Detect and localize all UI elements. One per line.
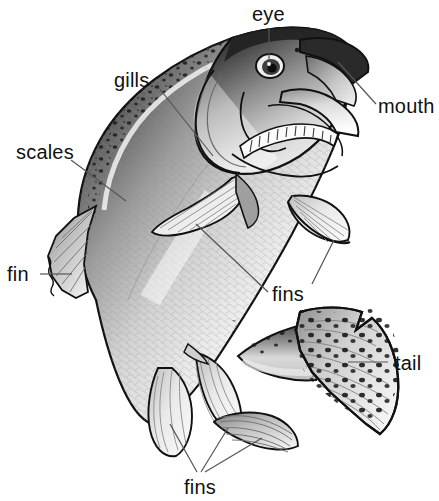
label-scales: scales — [16, 142, 74, 162]
label-fin: fin — [7, 264, 29, 284]
leader-fins-bottom-right — [205, 438, 262, 472]
fish-anatomy-diagram: eye mouth gills scales fin fins tail fin… — [0, 0, 439, 501]
pelvic-fin-right — [288, 196, 350, 244]
tail-fin — [290, 300, 410, 440]
label-eye: eye — [252, 4, 285, 24]
label-gills: gills — [114, 70, 149, 90]
label-fins-middle: fins — [272, 284, 304, 304]
label-fins-bottom: fins — [184, 477, 216, 497]
leader-fins-pelvic — [312, 240, 334, 284]
label-mouth: mouth — [378, 96, 435, 116]
eye — [256, 54, 284, 78]
label-tail: tail — [395, 353, 421, 373]
leader-fins-bottom-mid — [201, 428, 228, 472]
fish-illustration — [0, 0, 439, 501]
